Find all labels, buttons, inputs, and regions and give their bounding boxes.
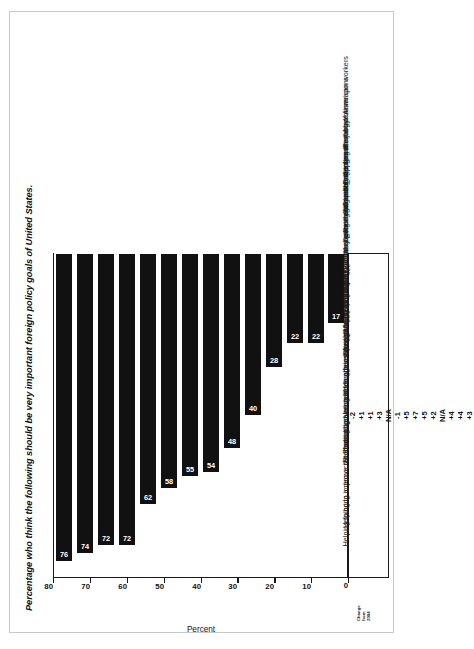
bar: 28 [266, 254, 282, 367]
bar: 48 [224, 254, 240, 448]
bar-value-label: 28 [270, 356, 278, 365]
change-value: +3 [375, 253, 384, 578]
change-value: N/A [384, 253, 393, 578]
bar-value-label: 17 [332, 312, 340, 321]
change-value: +2 [429, 253, 438, 578]
bar-row: 17 [328, 254, 344, 577]
axis-tick-label: 30 [229, 582, 238, 591]
bar-value-label: 22 [311, 332, 319, 341]
figure: Percentage who think the following shoul… [9, 11, 394, 633]
bar-row: 48 [224, 254, 240, 577]
bar-value-label: 54 [207, 461, 215, 470]
bar-row: 40 [245, 254, 261, 577]
change-column-header: Change from 2004 [356, 581, 372, 621]
change-value: +5 [402, 253, 411, 578]
bar-value-label: 22 [290, 332, 298, 341]
bar-value-label: 72 [102, 534, 110, 543]
bar-row: 58 [161, 254, 177, 577]
bar-value-label: 48 [228, 437, 236, 446]
bar: 54 [203, 254, 219, 472]
change-value: +5 [420, 253, 429, 578]
axis-tick-label: 10 [302, 582, 311, 591]
percent-axis: Percent 01020304050607080 [53, 578, 348, 633]
axis-tick-label: 80 [44, 582, 53, 591]
bar-row: 55 [182, 254, 198, 577]
bar-value-label: 76 [60, 550, 68, 559]
bar-value-label: 58 [165, 478, 173, 487]
change-value: N/A [438, 253, 447, 578]
axis-tick-label: 50 [155, 582, 164, 591]
axis-tick-label: 20 [266, 582, 275, 591]
bar: 58 [161, 254, 177, 488]
change-value: -1 [393, 253, 402, 578]
bar: 74 [77, 254, 93, 553]
bar: 62 [140, 254, 156, 504]
change-value: +1 [357, 253, 366, 578]
axis-tick [274, 578, 275, 583]
change-value: -2 [348, 253, 357, 578]
bar: 17 [328, 254, 344, 323]
change-column-values: -2+1+1+3N/A-1+5+7+5+2N/A+4+4+3 [348, 253, 389, 578]
bar: 40 [245, 254, 261, 416]
axis-tick [348, 578, 349, 583]
axis-tick [237, 578, 238, 583]
chart-title: Percentage who think the following shoul… [23, 41, 35, 611]
bar-series: 7674727262585554484028222217 [54, 254, 347, 577]
bar-value-label: 72 [123, 534, 131, 543]
bar-row: 22 [308, 254, 324, 577]
bar-row: 72 [119, 254, 135, 577]
bar: 22 [287, 254, 303, 343]
axis-tick-label: 70 [81, 582, 90, 591]
change-value: +4 [456, 253, 465, 578]
bar: 76 [56, 254, 72, 561]
change-value: +3 [465, 253, 474, 578]
bar-value-label: 74 [81, 542, 89, 551]
bar-value-label: 40 [249, 405, 257, 414]
axis-tick-label: 60 [118, 582, 127, 591]
bar: 55 [182, 254, 198, 476]
axis-tick-label: 40 [192, 582, 201, 591]
rotated-figure-stage: Percentage who think the following shoul… [9, 11, 394, 633]
change-value: +1 [366, 253, 375, 578]
bar-row: 54 [203, 254, 219, 577]
axis-tick-label: 0 [344, 582, 348, 591]
bar-row: 74 [77, 254, 93, 577]
axis-tick [311, 578, 312, 583]
bar: 22 [308, 254, 324, 343]
bar-row: 28 [266, 254, 282, 577]
change-value: +4 [447, 253, 456, 578]
change-value: +7 [411, 253, 420, 578]
bar: 72 [98, 254, 114, 545]
bar-row: 22 [287, 254, 303, 577]
bar-row: 72 [98, 254, 114, 577]
bar-value-label: 55 [186, 465, 194, 474]
bar-row: 76 [56, 254, 72, 577]
bar-value-label: 62 [144, 494, 152, 503]
change-header-line-3: 2004 [366, 581, 371, 621]
bar-row: 62 [140, 254, 156, 577]
axis-title: Percent [186, 625, 214, 634]
bar: 72 [119, 254, 135, 545]
